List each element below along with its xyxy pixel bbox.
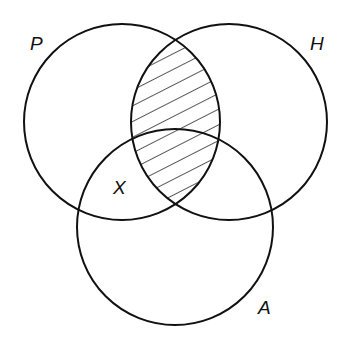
label-h: H	[310, 33, 324, 54]
venn-diagram: P H A X	[0, 0, 346, 346]
label-x: X	[112, 177, 127, 198]
label-p: P	[30, 33, 43, 54]
label-a: A	[257, 297, 271, 318]
